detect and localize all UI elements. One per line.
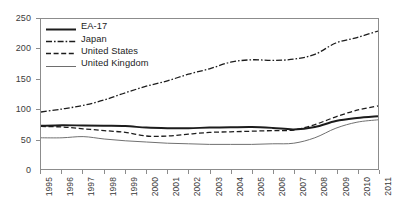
x-tick-label: 2000: [150, 177, 160, 196]
x-tick-mark: [40, 170, 41, 174]
legend-item: United States: [46, 45, 166, 57]
series-line-ea-17: [41, 116, 378, 129]
y-tick-label: 200: [16, 43, 31, 53]
y-tick-label: 100: [16, 104, 31, 114]
x-tick-label: 2010: [362, 177, 372, 196]
y-tick-label: 50: [21, 135, 31, 145]
x-tick-label: 1999: [129, 177, 139, 196]
x-tick-mark: [210, 170, 211, 174]
y-tick-label: 0: [26, 165, 31, 175]
legend-label: United States: [81, 46, 138, 56]
x-tick-mark: [294, 170, 295, 174]
x-axis: 1995199619971998199920002001200220032004…: [40, 170, 379, 217]
y-axis: 050100150200250: [0, 0, 40, 217]
legend-line-swatch: [46, 21, 76, 32]
x-tick-label: 2002: [192, 177, 202, 196]
x-tick-label: 2006: [277, 177, 287, 196]
legend: EA-17JapanUnited StatesUnited Kingdom: [46, 20, 166, 70]
x-tick-label: 2004: [235, 177, 245, 196]
x-tick-mark: [315, 170, 316, 174]
legend-label: Japan: [81, 34, 107, 44]
x-tick-mark: [358, 170, 359, 174]
x-tick-label: 2001: [171, 177, 181, 196]
x-tick-mark: [379, 170, 380, 174]
x-tick-label: 2003: [214, 177, 224, 196]
x-tick-mark: [188, 170, 189, 174]
x-tick-label: 1995: [44, 177, 54, 196]
x-tick-mark: [337, 170, 338, 174]
x-tick-label: 1998: [108, 177, 118, 196]
line-chart: 050100150200250 199519961997199819992000…: [0, 0, 401, 217]
legend-item: EA-17: [46, 20, 166, 32]
y-tick-label: 250: [16, 13, 31, 23]
x-tick-mark: [125, 170, 126, 174]
x-tick-label: 2005: [256, 177, 266, 196]
x-tick-label: 2011: [383, 177, 393, 196]
x-tick-label: 1997: [86, 177, 96, 196]
x-tick-mark: [167, 170, 168, 174]
x-tick-label: 1996: [65, 177, 75, 196]
x-tick-mark: [61, 170, 62, 174]
legend-item: Japan: [46, 32, 166, 44]
legend-line-swatch: [46, 58, 76, 69]
x-tick-mark: [273, 170, 274, 174]
x-tick-mark: [146, 170, 147, 174]
legend-label: United Kingdom: [81, 58, 149, 68]
legend-line-swatch: [46, 33, 76, 44]
x-tick-mark: [104, 170, 105, 174]
x-tick-mark: [82, 170, 83, 174]
x-tick-label: 2007: [298, 177, 308, 196]
legend-label: EA-17: [81, 21, 107, 31]
legend-item: United Kingdom: [46, 57, 166, 69]
x-tick-label: 2008: [319, 177, 329, 196]
x-tick-label: 2009: [341, 177, 351, 196]
legend-line-swatch: [46, 45, 76, 56]
x-tick-mark: [231, 170, 232, 174]
x-tick-mark: [252, 170, 253, 174]
y-tick-label: 150: [16, 74, 31, 84]
